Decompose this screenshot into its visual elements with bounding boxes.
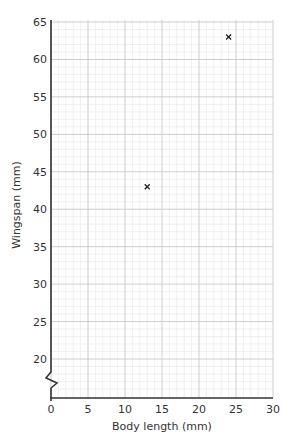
y-tick-label: 60 [33,53,47,66]
y-tick-label: 55 [33,91,47,104]
x-tick-label: 5 [85,403,92,416]
y-tick-label: 20 [33,353,47,366]
x-tick-label: 0 [48,403,55,416]
y-tick-label: 65 [33,16,47,29]
y-tick-label: 25 [33,316,47,329]
y-tick-label: 40 [33,203,47,216]
x-tick-label: 30 [266,403,280,416]
x-tick-label: 10 [118,403,132,416]
x-tick-label: 20 [192,403,206,416]
y-tick-label: 45 [33,166,47,179]
x-tick-label: 25 [229,403,243,416]
y-tick-label: 35 [33,241,47,254]
grid-major [51,20,273,398]
x-tick-labels: 051015202530 [48,403,281,416]
y-tick-labels: 20253035404550556065 [33,16,47,366]
y-tick-label: 50 [33,128,47,141]
x-axis-label: Body length (mm) [112,420,212,433]
y-tick-label: 30 [33,278,47,291]
scatter-chart: 051015202530 20253035404550556065 Body l… [0,0,296,448]
y-axis-label: Wingspan (mm) [10,161,23,249]
x-tick-label: 15 [155,403,169,416]
